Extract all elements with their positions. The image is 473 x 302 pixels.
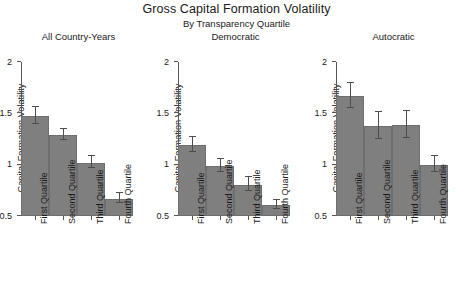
y-axis-label: Capital Formation Volatility: [159, 58, 173, 218]
x-axis-tick: [192, 216, 193, 220]
chart-panel: All Country-Years Capital Formation Vola…: [0, 31, 157, 302]
figure-title: Gross Capital Formation Volatility: [0, 2, 473, 16]
figure-subtitle: By Transparency Quartile: [0, 18, 473, 29]
error-bar: [192, 137, 193, 152]
panel-title: Democratic: [157, 31, 314, 42]
error-bar-cap-high: [60, 128, 67, 129]
error-bar-cap-low: [403, 137, 410, 138]
y-axis-tick-label: 1.5: [0, 108, 12, 118]
y-axis-tick-label: 1: [164, 159, 169, 169]
x-axis-tick: [434, 216, 435, 220]
error-bar: [434, 156, 435, 171]
error-bar-cap-high: [217, 158, 224, 159]
error-bar-cap-low: [116, 202, 123, 203]
error-bar-cap-high: [273, 199, 280, 200]
y-axis-label: Capital Formation Volatility: [317, 58, 331, 218]
error-bar: [220, 159, 221, 172]
y-axis-tick-label: 1: [7, 159, 12, 169]
x-axis-tick-label: Fourth Quartile: [123, 164, 133, 224]
y-axis-tick: 2: [332, 61, 336, 62]
error-bar-cap-low: [347, 107, 354, 108]
error-bar-cap-high: [375, 111, 382, 112]
x-axis-tick-label: Third Quartile: [410, 169, 420, 224]
panel-title: Autocratic: [315, 31, 472, 42]
y-axis-label: Capital Formation Volatility: [2, 58, 16, 218]
error-bar-cap-high: [32, 106, 39, 107]
y-axis-tick-label: 0.5: [156, 211, 169, 221]
y-axis-tick-label: 1.5: [314, 108, 327, 118]
error-bar-cap-low: [273, 208, 280, 209]
x-axis-tick: [406, 216, 407, 220]
x-axis-tick: [248, 216, 249, 220]
plot-area: 0.511.52First QuartileSecond QuartileThi…: [178, 62, 290, 216]
chart-panel: Democratic Capital Formation Volatility …: [157, 31, 314, 302]
y-axis-tick: 2: [17, 61, 21, 62]
error-bar-cap-high: [245, 176, 252, 177]
x-axis-tick-label: First Quartile: [354, 172, 364, 224]
x-axis-tick-label: Third Quartile: [252, 169, 262, 224]
error-bar-cap-low: [245, 190, 252, 191]
error-bar-cap-low: [431, 171, 438, 172]
error-bar-cap-low: [60, 139, 67, 140]
plot-area: 0.511.52First QuartileSecond QuartileThi…: [336, 62, 448, 216]
chart-panel: Autocratic Capital Formation Volatility …: [315, 31, 472, 302]
x-axis-tick: [378, 216, 379, 220]
error-bar-cap-high: [88, 155, 95, 156]
y-axis-tick-label: 1: [322, 159, 327, 169]
y-axis-tick-label: 2: [322, 57, 327, 67]
x-axis-tick: [119, 216, 120, 220]
error-bar-cap-high: [189, 136, 196, 137]
x-axis-tick-label: Fourth Quartile: [438, 164, 448, 224]
y-axis-tick-label: 2: [164, 57, 169, 67]
plot-area: 0.511.52First QuartileSecond QuartileThi…: [21, 62, 133, 216]
error-bar: [350, 83, 351, 109]
error-bar-cap-low: [375, 138, 382, 139]
y-axis-tick: 1.5: [174, 112, 178, 113]
panel-title: All Country-Years: [0, 31, 157, 42]
error-bar-cap-low: [217, 171, 224, 172]
error-bar-cap-high: [431, 155, 438, 156]
error-bar-cap-high: [403, 110, 410, 111]
error-bar-cap-low: [32, 123, 39, 124]
x-axis-tick: [350, 216, 351, 220]
error-bar-cap-high: [116, 192, 123, 193]
x-axis-tick-label: First Quartile: [39, 172, 49, 224]
error-bar: [406, 111, 407, 138]
error-bar-cap-high: [347, 82, 354, 83]
x-axis-tick: [276, 216, 277, 220]
x-axis-tick: [91, 216, 92, 220]
error-bar: [248, 177, 249, 191]
error-bar-cap-low: [189, 151, 196, 152]
x-axis-tick-label: Fourth Quartile: [280, 164, 290, 224]
x-axis-tick-label: Third Quartile: [95, 169, 105, 224]
x-axis-tick-label: First Quartile: [196, 172, 206, 224]
y-axis-tick-label: 1.5: [156, 108, 169, 118]
y-axis-tick: 1.5: [17, 112, 21, 113]
y-axis-tick: 2: [174, 61, 178, 62]
y-axis-tick-label: 0.5: [0, 211, 12, 221]
x-axis-tick-label: Second Quartile: [382, 159, 392, 224]
y-axis-tick-label: 2: [7, 57, 12, 67]
x-axis-tick: [63, 216, 64, 220]
x-axis-tick: [35, 216, 36, 220]
x-axis-tick-label: Second Quartile: [224, 159, 234, 224]
error-bar: [35, 107, 36, 123]
x-axis-tick-label: Second Quartile: [67, 159, 77, 224]
x-axis-tick: [220, 216, 221, 220]
error-bar: [378, 112, 379, 139]
y-axis-tick-label: 0.5: [314, 211, 327, 221]
error-bar-cap-low: [88, 167, 95, 168]
